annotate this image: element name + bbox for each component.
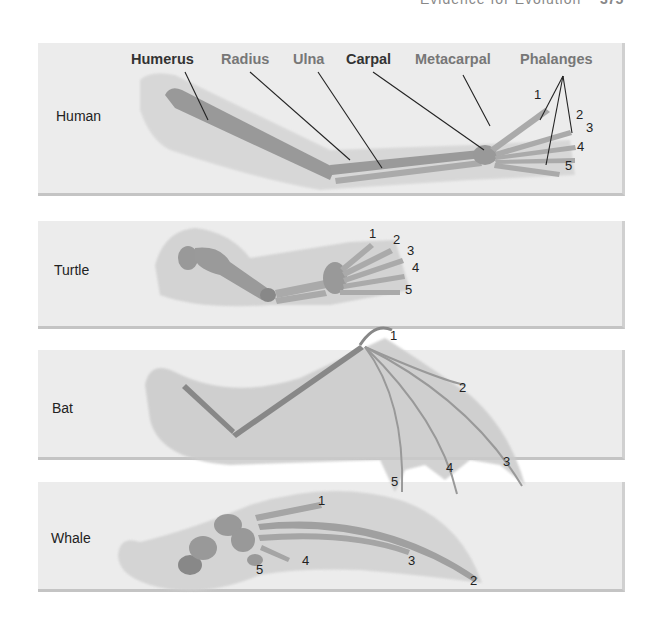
turtle-digit-1: 1 [369,226,376,241]
turtle-digit-3: 3 [407,243,414,258]
turtle-digit-5: 5 [405,282,412,297]
bat-digit-4: 4 [446,460,453,475]
turtle-digit-4: 4 [412,260,419,275]
bat-digit-3: 3 [503,454,510,469]
limb-illustrations [0,0,657,626]
whale-digit-4: 4 [302,553,309,568]
species-label-turtle: Turtle [54,262,89,278]
whale-digit-5: 5 [256,562,263,577]
human-digit-2: 2 [576,107,583,122]
label-ulna: Ulna [293,51,324,67]
turtle-digit-2: 2 [393,232,400,247]
bat-digit-2: 2 [459,380,466,395]
label-humerus: Humerus [131,51,194,67]
bat-digit-1: 1 [390,328,397,343]
human-digit-3: 3 [586,120,593,135]
label-metacarpal: Metacarpal [415,51,491,67]
label-phalanges: Phalanges [520,51,593,67]
label-carpal: Carpal [346,51,391,67]
bat-wing-illustration [145,328,525,494]
whale-flipper-illustration [118,491,482,591]
human-digit-4: 4 [577,139,584,154]
label-radius: Radius [221,51,269,67]
species-label-whale: Whale [51,530,91,546]
species-label-bat: Bat [52,400,73,416]
bat-digit-5: 5 [391,474,398,489]
human-digit-1: 1 [534,87,541,102]
whale-digit-3: 3 [408,553,415,568]
species-label-human: Human [56,108,101,124]
human-digit-5: 5 [565,158,572,173]
whale-digit-1: 1 [318,493,325,508]
whale-digit-2: 2 [470,573,477,588]
